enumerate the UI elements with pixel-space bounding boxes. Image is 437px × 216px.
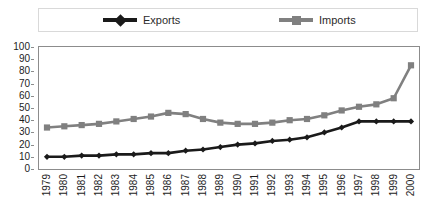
data-point-square <box>269 120 275 126</box>
chart-legend: Exports Imports <box>38 8 418 32</box>
data-point-square <box>61 123 67 129</box>
x-tick-label: 1996 <box>337 174 347 196</box>
x-tick-label: 1997 <box>354 174 364 196</box>
legend-item-exports[interactable]: Exports <box>103 14 180 26</box>
data-point-square <box>148 113 154 119</box>
y-tick-label: 0 <box>24 164 30 174</box>
x-tick-label: 1994 <box>302 174 312 196</box>
data-point-square <box>391 95 397 101</box>
data-point-square <box>321 112 327 118</box>
plot-area <box>38 46 420 170</box>
y-tick-mark <box>31 96 34 97</box>
data-point-diamond <box>96 152 102 158</box>
y-tick-label: 10 <box>19 152 30 162</box>
x-tick-label: 1990 <box>233 174 243 196</box>
data-point-diamond <box>61 154 67 160</box>
y-tick-mark <box>31 132 34 133</box>
data-point-diamond <box>131 151 137 157</box>
data-point-square <box>131 116 137 122</box>
data-point-square <box>183 111 189 117</box>
data-point-diamond <box>356 118 362 124</box>
x-tick-label: 1983 <box>111 174 121 196</box>
data-point-diamond <box>148 150 154 156</box>
data-point-square <box>165 110 171 116</box>
data-point-square <box>373 101 379 107</box>
y-tick-mark <box>31 169 34 170</box>
x-tick-label: 1982 <box>94 174 104 196</box>
x-tick-label: 1995 <box>319 174 329 196</box>
y-tick-mark <box>31 157 34 158</box>
x-tick-label: 1987 <box>181 174 191 196</box>
legend-item-imports[interactable]: Imports <box>279 14 356 26</box>
y-tick-mark <box>31 120 34 121</box>
y-tick-label: 50 <box>19 103 30 113</box>
y-tick-mark <box>31 108 34 109</box>
data-point-diamond <box>408 118 414 124</box>
x-tick-label: 1992 <box>267 174 277 196</box>
data-point-diamond <box>79 152 85 158</box>
y-tick-mark <box>31 47 34 48</box>
x-axis: 1979198019811982198319841985198619871988… <box>38 172 420 216</box>
data-point-square <box>200 116 206 122</box>
y-tick-mark <box>31 145 34 146</box>
x-tick-label: 1980 <box>59 174 69 196</box>
data-point-diamond <box>252 140 258 146</box>
data-point-square <box>79 122 85 128</box>
data-point-square <box>113 118 119 124</box>
y-tick-mark <box>31 84 34 85</box>
data-point-diamond <box>217 144 223 150</box>
y-tick-mark <box>31 59 34 60</box>
y-tick-label: 100 <box>13 42 30 52</box>
data-point-square <box>96 121 102 127</box>
data-point-square <box>304 116 310 122</box>
data-point-diamond <box>321 129 327 135</box>
x-tick-label: 1985 <box>146 174 156 196</box>
data-point-diamond <box>373 118 379 124</box>
data-point-diamond <box>165 150 171 156</box>
legend-label-imports: Imports <box>319 15 356 26</box>
x-tick-label: 1999 <box>389 174 399 196</box>
y-tick-label: 80 <box>19 66 30 76</box>
data-point-square <box>408 62 414 68</box>
y-tick-label: 60 <box>19 91 30 101</box>
y-tick-label: 20 <box>19 140 30 150</box>
data-point-diamond <box>183 148 189 154</box>
diamond-marker-icon <box>103 14 137 26</box>
data-point-diamond <box>287 137 293 143</box>
data-point-diamond <box>235 142 241 148</box>
y-tick-label: 30 <box>19 127 30 137</box>
x-tick-label: 1993 <box>285 174 295 196</box>
data-point-diamond <box>113 151 119 157</box>
y-tick-label: 70 <box>19 79 30 89</box>
data-point-square <box>356 104 362 110</box>
x-tick-label: 1988 <box>198 174 208 196</box>
data-point-square <box>44 124 50 130</box>
data-point-square <box>235 121 241 127</box>
plot-svg <box>39 47 419 169</box>
data-point-diamond <box>304 134 310 140</box>
line-chart: Exports Imports 1009080706050403020100 1… <box>0 0 437 216</box>
y-tick-label: 40 <box>19 115 30 125</box>
x-tick-label: 1986 <box>163 174 173 196</box>
data-point-square <box>339 107 345 113</box>
square-marker-icon <box>279 14 313 26</box>
data-point-diamond <box>391 118 397 124</box>
x-tick-label: 1998 <box>371 174 381 196</box>
legend-label-exports: Exports <box>143 15 180 26</box>
data-point-diamond <box>339 124 345 130</box>
data-point-square <box>287 117 293 123</box>
y-tick-label: 90 <box>19 54 30 64</box>
y-axis: 1009080706050403020100 <box>0 46 34 170</box>
series-line <box>47 65 411 127</box>
x-tick-label: 2000 <box>406 174 416 196</box>
x-tick-label: 1984 <box>129 174 139 196</box>
data-point-square <box>217 120 223 126</box>
x-tick-label: 1991 <box>250 174 260 196</box>
y-tick-mark <box>31 71 34 72</box>
data-point-square <box>252 121 258 127</box>
data-point-diamond <box>269 138 275 144</box>
x-tick-label: 1981 <box>77 174 87 196</box>
x-tick-label: 1979 <box>42 174 52 196</box>
x-tick-label: 1989 <box>215 174 225 196</box>
data-point-diamond <box>44 154 50 160</box>
